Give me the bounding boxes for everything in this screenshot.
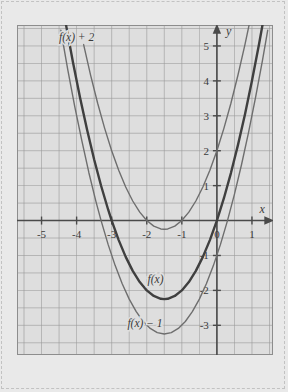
- y-tick-label: 4: [203, 75, 209, 87]
- figure-container: -5-4-3-2-101-3-2-112345 f(x) + 2f(x) + 2…: [0, 0, 288, 392]
- y-axis-label: y: [225, 25, 232, 38]
- x-tick-label: -1: [177, 228, 186, 240]
- curve-label-f-x-: f(x): [148, 273, 164, 286]
- y-tick-label: 2: [203, 145, 209, 157]
- curve-label-f-x-2: f(x) + 2: [59, 31, 94, 44]
- graph-svg: -5-4-3-2-101-3-2-112345 f(x) + 2f(x) + 2…: [17, 25, 273, 355]
- x-tick-label: 1: [249, 228, 255, 240]
- x-tick-label: -4: [72, 228, 82, 240]
- y-tick-label: 5: [203, 40, 209, 52]
- x-axis-label: x: [259, 202, 266, 216]
- plot-area: -5-4-3-2-101-3-2-112345 f(x) + 2f(x) + 2…: [17, 25, 273, 355]
- x-tick-label: 0: [214, 228, 220, 240]
- y-tick-label: 1: [203, 180, 209, 192]
- y-tick-label: -3: [200, 319, 210, 331]
- x-tick-label: -2: [142, 228, 151, 240]
- x-tick-label: -5: [37, 228, 47, 240]
- y-tick-label: 3: [203, 110, 209, 122]
- curve-label-f-x-1: f(x) − 1: [127, 317, 162, 330]
